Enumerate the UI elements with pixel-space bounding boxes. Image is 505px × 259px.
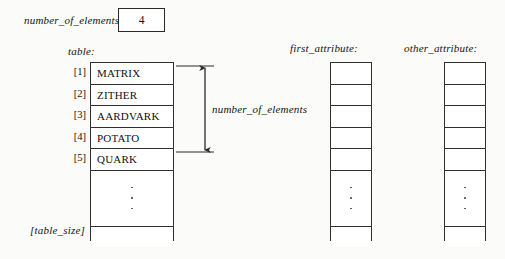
table-column: MATRIX ZITHER AARDVARK POTATO QUARK xyxy=(90,62,174,241)
first-attribute-row xyxy=(331,106,371,128)
ellipsis-dot xyxy=(131,197,133,199)
diagram-canvas: number_of_elements: 4 table: first_attri… xyxy=(0,0,505,259)
other-attribute-last-row xyxy=(445,227,485,247)
ellipsis-dot xyxy=(350,187,352,189)
other-attribute-column xyxy=(444,62,486,241)
ellipsis-dot xyxy=(464,197,466,199)
first-attribute-label: first_attribute: xyxy=(290,42,358,54)
first-attribute-row xyxy=(331,63,371,85)
other-attribute-row xyxy=(445,128,485,150)
table-row: POTATO xyxy=(91,128,173,150)
table-cell-value: QUARK xyxy=(97,153,137,165)
other-attribute-label: other_attribute: xyxy=(404,42,477,54)
table-ellipsis-row xyxy=(91,171,173,227)
number-of-elements-box: 4 xyxy=(118,8,165,32)
first-attribute-row xyxy=(331,85,371,107)
ellipsis-dot xyxy=(131,187,133,189)
other-attribute-row xyxy=(445,85,485,107)
table-cell-value: POTATO xyxy=(97,132,139,144)
table-label: table: xyxy=(68,45,95,57)
ellipsis-dot xyxy=(350,197,352,199)
table-index-5: [5] xyxy=(58,152,86,163)
table-row: MATRIX xyxy=(91,63,173,85)
other-attribute-row xyxy=(445,63,485,85)
first-attribute-ellipsis-row xyxy=(331,171,371,227)
other-attribute-ellipsis-row xyxy=(445,171,485,227)
first-attribute-row xyxy=(331,128,371,150)
number-of-elements-label: number_of_elements: xyxy=(24,14,123,26)
table-cell-value: MATRIX xyxy=(97,67,140,79)
table-size-label: [table_size] xyxy=(30,224,85,236)
first-attribute-last-row xyxy=(331,227,371,247)
table-last-row xyxy=(91,227,173,247)
other-attribute-row xyxy=(445,106,485,128)
table-index-2: [2] xyxy=(58,88,86,99)
first-attribute-column xyxy=(330,62,372,241)
span-annotation-label: number_of_elements xyxy=(212,103,307,115)
ellipsis-dot xyxy=(131,208,133,210)
first-attribute-row xyxy=(331,149,371,171)
table-row: QUARK xyxy=(91,149,173,171)
table-cell-value: ZITHER xyxy=(97,89,137,101)
span-annotation xyxy=(0,0,505,259)
ellipsis-dot xyxy=(464,187,466,189)
ellipsis-dot xyxy=(464,208,466,210)
table-row: AARDVARK xyxy=(91,106,173,128)
other-attribute-row xyxy=(445,149,485,171)
number-of-elements-value: 4 xyxy=(119,9,164,31)
table-index-3: [3] xyxy=(58,109,86,120)
table-index-4: [4] xyxy=(58,131,86,142)
table-cell-value: AARDVARK xyxy=(97,110,160,122)
table-index-1: [1] xyxy=(58,66,86,77)
ellipsis-dot xyxy=(350,208,352,210)
table-row: ZITHER xyxy=(91,85,173,107)
